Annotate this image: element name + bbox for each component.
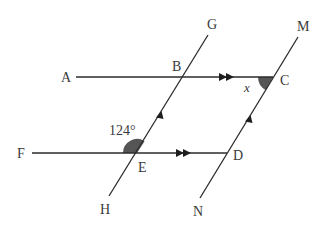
angle-x-shading <box>258 77 273 90</box>
label-B: B <box>172 59 181 74</box>
label-C: C <box>280 73 289 88</box>
label-A: A <box>61 70 72 85</box>
angle-x-label: x <box>243 80 250 95</box>
angle-124-label: 124° <box>109 123 136 138</box>
label-G: G <box>207 17 217 32</box>
double-arrow-icon-FD <box>176 149 191 157</box>
angle-124-shading <box>123 139 145 153</box>
label-M: M <box>297 19 310 34</box>
parallel-lines-diagram: A B C G M F E D H N 124° x <box>0 0 324 226</box>
label-D: D <box>233 148 243 163</box>
label-E: E <box>138 160 147 175</box>
double-arrow-icon-AC <box>219 73 234 81</box>
label-N: N <box>193 204 203 219</box>
label-H: H <box>100 202 110 217</box>
label-F: F <box>17 146 25 161</box>
